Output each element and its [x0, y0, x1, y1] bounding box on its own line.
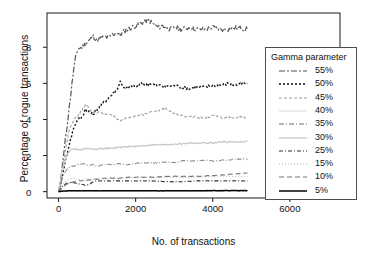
- y-tick-label-4: 4: [26, 114, 31, 125]
- legend-item-30: 30%: [266, 132, 358, 145]
- legend-item-25: 25%: [266, 145, 358, 158]
- legend-label: 35%: [315, 118, 333, 128]
- legend-item-45: 45%: [266, 92, 358, 105]
- chart-figure: Percentage of rogue transactions No. of …: [0, 0, 390, 258]
- legend-item-40: 40%: [266, 105, 358, 118]
- y-tick-label-2: 2: [26, 150, 31, 161]
- legend-item-35: 35%: [266, 118, 358, 131]
- legend-item-5: 5%: [266, 185, 358, 198]
- x-tick-label-2000: 2000: [125, 203, 146, 214]
- legend-label: 30%: [315, 132, 333, 142]
- legend-item-50: 50%: [266, 78, 358, 91]
- legend-item-10: 10%: [266, 171, 358, 184]
- x-tick-label-6000: 6000: [279, 203, 300, 214]
- legend-label: 40%: [315, 105, 333, 115]
- legend-label: 45%: [315, 92, 333, 102]
- x-axis-title: No. of transactions: [47, 236, 340, 247]
- y-tick-label-6: 6: [26, 78, 31, 89]
- legend-label: 10%: [315, 171, 333, 181]
- chart-legend: Gamma parameter 55%50%45%40%35%30%25%15%…: [265, 47, 357, 200]
- legend-label: 50%: [315, 78, 333, 88]
- legend-label: 55%: [315, 65, 333, 75]
- y-tick-label-0: 0: [26, 186, 31, 197]
- legend-item-15: 15%: [266, 158, 358, 171]
- x-tick-label-0: 0: [56, 203, 61, 214]
- legend-label: 25%: [315, 145, 333, 155]
- x-tick-label-4000: 4000: [202, 203, 223, 214]
- legend-item-55: 55%: [266, 65, 358, 78]
- legend-title: Gamma parameter: [271, 52, 347, 62]
- y-tick-label-8: 8: [26, 42, 31, 53]
- legend-label: 5%: [315, 185, 328, 195]
- legend-label: 15%: [315, 158, 333, 168]
